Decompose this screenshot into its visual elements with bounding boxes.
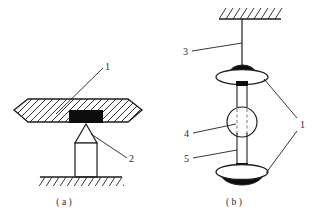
plate-black-block [69, 110, 103, 123]
callout-a-1: 1 [105, 61, 110, 72]
leader-line-b-5 [193, 150, 237, 158]
figure-root: 1 2 ( a ) [0, 0, 316, 216]
lower-disc-plate [216, 165, 268, 180]
panel-b-caption: ( b ) [226, 197, 242, 208]
callout-b-4: 4 [184, 128, 189, 139]
panel-b: 3 4 5 1 ( b ) [183, 8, 305, 208]
callout-b-1: 1 [300, 119, 305, 130]
panel-a: 1 2 ( a ) [0, 61, 170, 208]
pointed-support-tip [75, 124, 97, 143]
leader-line-b-3 [192, 43, 242, 51]
callout-b-3: 3 [183, 46, 188, 57]
ceiling-support [219, 8, 282, 19]
leader-line-b-1-lower [266, 131, 297, 173]
lower-shaft [237, 133, 247, 164]
diagram-canvas: 1 2 ( a ) [0, 0, 316, 216]
upper-disc-collar [236, 81, 248, 86]
panel-a-caption: ( a ) [56, 197, 71, 208]
callout-a-2: 2 [129, 153, 134, 164]
leader-line-b-1-upper [264, 79, 297, 118]
callout-b-5: 5 [184, 153, 189, 164]
upper-disc [216, 65, 268, 86]
lower-disc [216, 163, 268, 185]
central-sphere [227, 107, 257, 137]
ground-support [31, 177, 129, 188]
support-column [75, 143, 97, 177]
